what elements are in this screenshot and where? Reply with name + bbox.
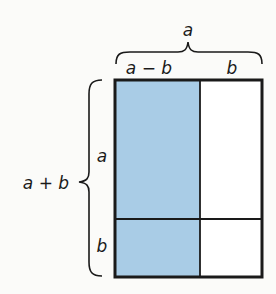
- left-brace-label: a + b: [23, 173, 69, 193]
- top-height-label: a: [97, 146, 107, 166]
- diagram-canvas: a a − b b a + b a b: [0, 0, 276, 294]
- region-bottom-right: [200, 219, 262, 277]
- region-bottom-left: [115, 219, 200, 277]
- top-brace-label: a: [183, 20, 193, 40]
- top-left-width-label: a − b: [126, 58, 172, 78]
- region-top-right: [200, 80, 262, 219]
- bottom-height-label: b: [97, 236, 108, 256]
- region-top-left: [115, 80, 200, 219]
- top-right-width-label: b: [227, 58, 238, 78]
